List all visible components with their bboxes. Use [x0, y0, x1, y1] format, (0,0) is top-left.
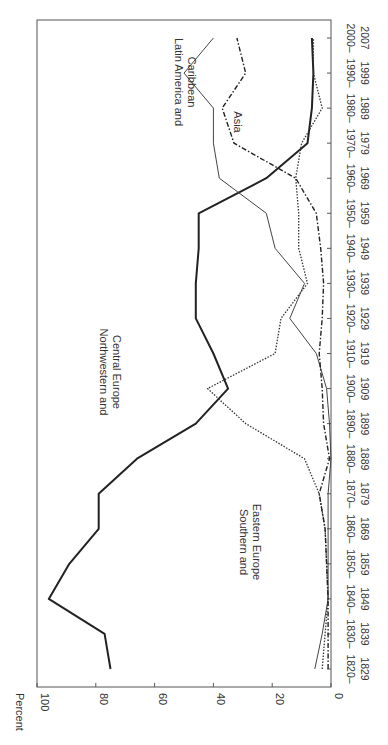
svg-text:1890–: 1890– — [345, 409, 357, 438]
svg-text:1990–: 1990– — [345, 58, 357, 87]
svg-text:1860–: 1860– — [345, 514, 357, 543]
svg-text:1989: 1989 — [359, 96, 371, 120]
svg-text:Northwestern and: Northwestern and — [98, 329, 110, 416]
svg-text:1840–: 1840– — [345, 584, 357, 613]
svg-text:1849: 1849 — [359, 587, 371, 611]
svg-text:Caribbean: Caribbean — [186, 57, 198, 108]
svg-text:1999: 1999 — [359, 61, 371, 85]
category-label: 1870–1879 — [345, 479, 371, 508]
category-label: 1890–1899 — [345, 409, 371, 438]
svg-text:1889: 1889 — [359, 447, 371, 471]
svg-text:1910–: 1910– — [345, 339, 357, 368]
svg-text:1909: 1909 — [359, 377, 371, 401]
svg-text:1859: 1859 — [359, 552, 371, 576]
category-label: 1840–1849 — [345, 584, 371, 613]
category-label: 1850–1859 — [345, 549, 371, 578]
svg-text:1960–: 1960– — [345, 164, 357, 193]
svg-text:1900–: 1900– — [345, 374, 357, 403]
percent-tick-label: 60 — [157, 693, 169, 705]
category-label: 1960–1969 — [345, 164, 371, 193]
svg-text:1880–: 1880– — [345, 444, 357, 473]
percent-tick-label: 100 — [39, 693, 51, 711]
rotated-line-chart: 020406080100Percent1820–18291830–1839184… — [0, 0, 388, 745]
category-label: 2000–2007 — [345, 23, 371, 52]
category-label: 1910–1919 — [345, 339, 371, 368]
svg-text:1920–: 1920– — [345, 304, 357, 333]
svg-text:Latin America and: Latin America and — [173, 38, 185, 126]
series-line-southern-and-eastern-europe — [208, 38, 329, 669]
svg-text:1820–: 1820– — [345, 654, 357, 683]
series-label: Asia — [232, 111, 244, 133]
category-label: 1950–1959 — [345, 199, 371, 228]
svg-text:2000–: 2000– — [345, 23, 357, 52]
svg-text:1869: 1869 — [359, 517, 371, 541]
chart-canvas: 020406080100Percent1820–18291830–1839184… — [0, 0, 388, 745]
category-label: 1900–1909 — [345, 374, 371, 403]
category-label: 1880–1889 — [345, 444, 371, 473]
svg-text:1919: 1919 — [359, 342, 371, 366]
svg-text:1930–: 1930– — [345, 269, 357, 298]
svg-text:1949: 1949 — [359, 237, 371, 261]
percent-axis-label: Percent — [14, 693, 26, 731]
percent-tick-label: 40 — [215, 693, 227, 705]
svg-text:1959: 1959 — [359, 202, 371, 226]
svg-text:1879: 1879 — [359, 482, 371, 506]
svg-text:Southern and: Southern and — [238, 509, 250, 575]
svg-text:1870–: 1870– — [345, 479, 357, 508]
svg-text:1950–: 1950– — [345, 199, 357, 228]
svg-text:1939: 1939 — [359, 272, 371, 296]
svg-text:1980–: 1980– — [345, 94, 357, 123]
category-label: 1980–1989 — [345, 94, 371, 123]
percent-tick-label: 20 — [274, 693, 286, 705]
category-label: 1860–1869 — [345, 514, 371, 543]
category-label: 1970–1979 — [345, 129, 371, 158]
series-label: Southern andEastern Europe — [238, 504, 263, 580]
svg-text:2007: 2007 — [359, 26, 371, 50]
category-label: 1990–1999 — [345, 58, 371, 87]
svg-text:1899: 1899 — [359, 412, 371, 436]
series-label: Northwestern andCentral Europe — [98, 329, 123, 416]
category-label: 1940–1949 — [345, 234, 371, 263]
category-label: 1920–1929 — [345, 304, 371, 333]
percent-tick-label: 0 — [333, 693, 345, 699]
source-footnote — [366, 640, 380, 740]
svg-text:1970–: 1970– — [345, 129, 357, 158]
svg-text:Asia: Asia — [232, 111, 244, 133]
svg-text:1830–: 1830– — [345, 619, 357, 648]
svg-text:1969: 1969 — [359, 167, 371, 191]
svg-text:1850–: 1850– — [345, 549, 357, 578]
svg-text:1929: 1929 — [359, 307, 371, 331]
svg-text:1940–: 1940– — [345, 234, 357, 263]
percent-tick-label: 80 — [98, 693, 110, 705]
series-label: Latin America andCaribbean — [173, 38, 198, 126]
svg-text:1979: 1979 — [359, 131, 371, 155]
svg-text:Eastern Europe: Eastern Europe — [251, 504, 263, 580]
category-label: 1930–1939 — [345, 269, 371, 298]
svg-text:Central Europe: Central Europe — [111, 335, 123, 409]
